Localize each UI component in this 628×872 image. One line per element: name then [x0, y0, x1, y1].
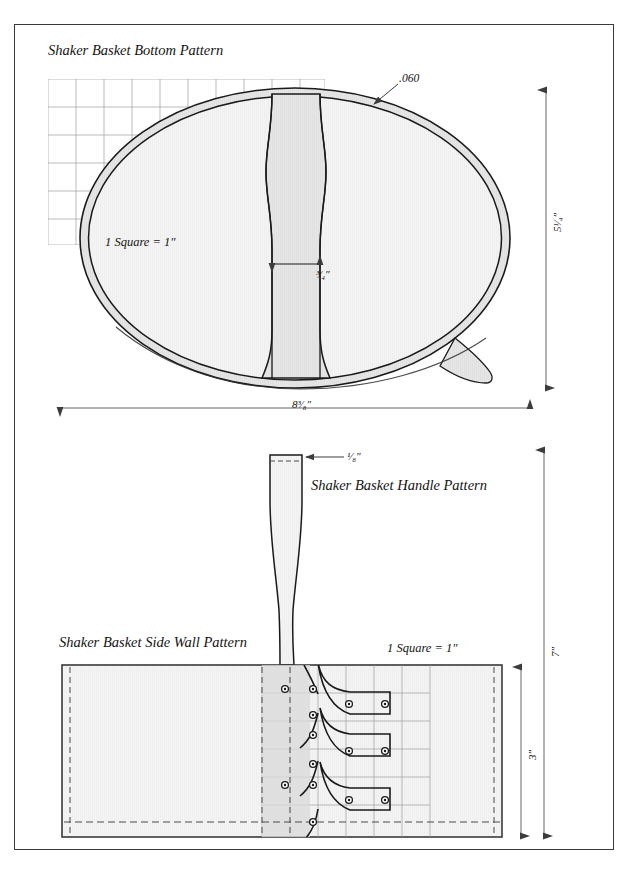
side-wall-scale-note: 1 Square = 1″ — [387, 641, 457, 656]
bottom-width-label: 8³⁄₈″ — [292, 398, 311, 410]
handle-pattern-title: Shaker Basket Handle Pattern — [311, 477, 487, 494]
bottom-scale-note: 1 Square = 1″ — [105, 235, 175, 250]
overall-height-label: 7″ — [549, 647, 561, 657]
side-wall-height-label: 3″ — [526, 750, 538, 760]
bottom-center-rib — [262, 94, 330, 378]
side-wall-pattern-title: Shaker Basket Side Wall Pattern — [59, 634, 247, 651]
drawing-page: Shaker Basket Bottom Pattern Shaker Bask… — [0, 0, 628, 872]
bottom-height-label: 5¹⁄₄″ — [551, 213, 563, 232]
rim-thickness-label: .060 — [399, 72, 419, 84]
technical-drawing-canvas — [0, 0, 628, 872]
handle-thickness-label: ¹⁄₈″ — [347, 450, 361, 462]
rim-thickness-leader — [374, 84, 398, 104]
center-rib-width-label: ³⁄₄″ — [316, 268, 330, 280]
bottom-pattern-title: Shaker Basket Bottom Pattern — [48, 42, 223, 59]
